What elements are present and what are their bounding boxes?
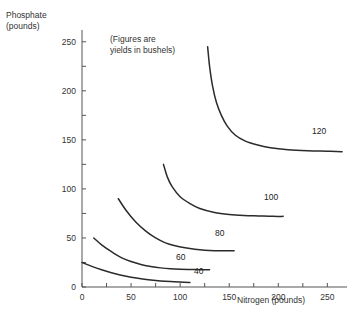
curve-label-120: 120 — [312, 126, 326, 136]
x-axis-tick-label: 150 — [214, 292, 244, 302]
x-axis-tick-label: 250 — [312, 292, 342, 302]
isoquant-curve-100 — [163, 164, 283, 216]
chart-annotation: (Figures are yields in bushels) — [110, 34, 175, 56]
x-axis-tick-label: 50 — [116, 292, 146, 302]
y-axis-tick-label: 200 — [52, 86, 76, 96]
isoquant-curve-40 — [82, 262, 190, 282]
y-axis-tick-label: 100 — [52, 184, 76, 194]
y-axis-title-line1: Phosphate — [6, 10, 47, 20]
curve-label-60: 60 — [176, 252, 185, 262]
x-axis-tick-label: 100 — [165, 292, 195, 302]
y-axis-tick-label: 250 — [52, 37, 76, 47]
curve-label-100: 100 — [264, 192, 278, 202]
y-axis-title-line2: (pounds) — [6, 21, 40, 31]
curve-label-40: 40 — [194, 266, 203, 276]
isoquant-curve-60 — [94, 238, 210, 270]
curve-label-80: 80 — [215, 228, 224, 238]
y-axis-tick-label: 50 — [52, 233, 76, 243]
x-axis-tick-label: 200 — [263, 292, 293, 302]
x-axis-tick-label: 0 — [67, 292, 97, 302]
isoquant-curve-80 — [118, 199, 234, 251]
y-axis-title: Phosphate(pounds) — [6, 10, 47, 32]
chart-container: Phosphate(pounds) (Figures are yields in… — [0, 0, 364, 319]
y-axis-tick-label: 150 — [52, 135, 76, 145]
isoquant-chart-svg — [0, 0, 364, 319]
y-axis-tick-label: 0 — [52, 282, 76, 292]
